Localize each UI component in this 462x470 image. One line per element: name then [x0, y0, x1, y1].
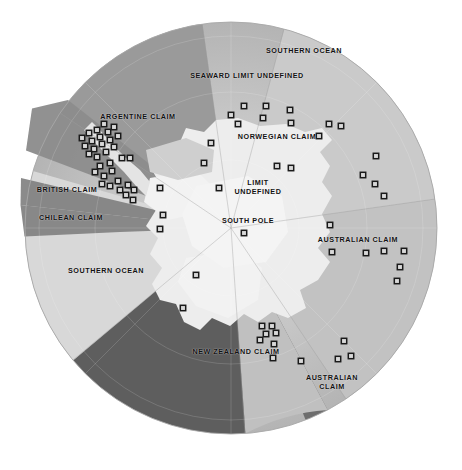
station-marker[interactable]: [123, 192, 128, 197]
station-marker[interactable]: [329, 249, 334, 254]
station-marker[interactable]: [111, 124, 116, 129]
station-marker[interactable]: [86, 130, 91, 135]
station-marker[interactable]: [341, 338, 346, 343]
station-marker[interactable]: [257, 337, 262, 342]
station-marker[interactable]: [273, 330, 278, 335]
station-marker[interactable]: [131, 187, 136, 192]
station-marker[interactable]: [208, 140, 213, 145]
station-marker[interactable]: [157, 185, 162, 190]
station-marker[interactable]: [193, 272, 198, 277]
station-marker[interactable]: [288, 120, 293, 125]
station-marker[interactable]: [335, 356, 340, 361]
station-marker[interactable]: [259, 323, 264, 328]
station-marker[interactable]: [228, 112, 233, 117]
station-marker[interactable]: [269, 323, 274, 328]
station-marker[interactable]: [201, 160, 206, 165]
station-marker[interactable]: [180, 305, 185, 310]
station-marker[interactable]: [101, 121, 106, 126]
station-marker[interactable]: [94, 154, 99, 159]
station-marker[interactable]: [241, 103, 246, 108]
station-marker[interactable]: [288, 165, 293, 170]
station-marker[interactable]: [89, 138, 94, 143]
station-marker[interactable]: [86, 151, 91, 156]
station-marker[interactable]: [271, 341, 276, 346]
station-marker[interactable]: [103, 149, 108, 154]
station-marker[interactable]: [82, 143, 87, 148]
station-marker[interactable]: [97, 134, 102, 139]
map-canvas: [0, 0, 462, 470]
station-marker[interactable]: [327, 222, 332, 227]
station-marker[interactable]: [397, 264, 402, 269]
station-marker[interactable]: [372, 181, 377, 186]
station-south-pole[interactable]: [241, 230, 246, 235]
station-marker[interactable]: [260, 115, 265, 120]
station-marker[interactable]: [263, 331, 268, 336]
station-marker[interactable]: [99, 181, 104, 186]
station-marker[interactable]: [363, 250, 368, 255]
station-marker[interactable]: [115, 133, 120, 138]
station-marker[interactable]: [263, 103, 268, 108]
station-marker[interactable]: [348, 353, 353, 358]
station-marker[interactable]: [373, 153, 378, 158]
station-marker[interactable]: [94, 127, 99, 132]
antarctic-claims-map: SOUTHERN OCEANSEAWARD LIMIT UNDEFINEDARG…: [0, 0, 462, 470]
station-marker[interactable]: [360, 172, 365, 177]
station-marker[interactable]: [216, 185, 221, 190]
station-marker[interactable]: [381, 248, 386, 253]
station-marker[interactable]: [105, 129, 110, 134]
station-marker[interactable]: [130, 197, 135, 202]
station-marker[interactable]: [119, 155, 124, 160]
station-marker[interactable]: [107, 160, 112, 165]
station-marker[interactable]: [99, 141, 104, 146]
station-marker[interactable]: [107, 137, 112, 142]
station-marker[interactable]: [109, 168, 114, 173]
station-marker[interactable]: [316, 133, 321, 138]
station-marker[interactable]: [298, 358, 303, 363]
station-marker[interactable]: [115, 178, 120, 183]
station-marker[interactable]: [97, 163, 102, 168]
station-marker[interactable]: [394, 278, 399, 283]
station-marker[interactable]: [125, 182, 130, 187]
station-marker[interactable]: [79, 135, 84, 140]
station-marker[interactable]: [401, 248, 406, 253]
station-marker[interactable]: [101, 173, 106, 178]
station-marker[interactable]: [92, 169, 97, 174]
station-marker[interactable]: [381, 193, 386, 198]
station-marker[interactable]: [274, 163, 279, 168]
station-marker[interactable]: [107, 183, 112, 188]
station-marker[interactable]: [287, 107, 292, 112]
station-marker[interactable]: [235, 121, 240, 126]
station-marker[interactable]: [270, 355, 275, 360]
station-marker[interactable]: [127, 155, 132, 160]
station-marker[interactable]: [157, 226, 162, 231]
station-marker[interactable]: [117, 187, 122, 192]
station-marker[interactable]: [338, 123, 343, 128]
station-marker[interactable]: [160, 212, 165, 217]
station-marker[interactable]: [326, 121, 331, 126]
station-marker[interactable]: [111, 144, 116, 149]
